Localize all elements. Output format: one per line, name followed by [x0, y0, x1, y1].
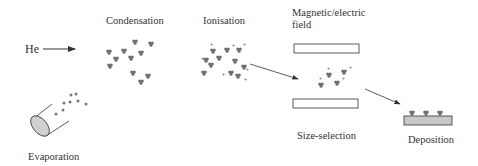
deposited-clusters: [409, 111, 443, 116]
charge-sign: +: [342, 75, 345, 81]
atom: [63, 102, 66, 105]
cluster: [138, 51, 144, 56]
cluster: [224, 48, 230, 53]
charge-sign: +: [319, 75, 322, 81]
charge-sign: +: [246, 66, 249, 72]
charge-sign: +: [210, 41, 213, 47]
field-label-line2: field: [292, 19, 312, 30]
beam-arrow-to-selector: [250, 64, 298, 79]
atom: [62, 109, 65, 112]
field-plate-top: [294, 44, 359, 53]
deposition-label: Deposition: [408, 134, 455, 145]
evaporated-atoms: [55, 93, 88, 116]
diagram-canvas: He Condensation Ionisation Magnetic/elec…: [0, 0, 478, 166]
ion-cluster: [318, 83, 324, 88]
atom: [69, 101, 72, 104]
deposited-cluster: [409, 111, 415, 116]
atom: [55, 113, 58, 116]
cluster: [145, 74, 151, 79]
deposited-cluster: [423, 111, 429, 116]
substrate: [404, 116, 452, 125]
cluster: [208, 63, 214, 68]
evaporation-label: Evaporation: [28, 151, 80, 162]
atom: [77, 100, 80, 103]
charge-sign: +: [222, 71, 225, 77]
cluster: [113, 57, 119, 62]
cluster: [236, 48, 242, 53]
ionisation-label: Ionisation: [203, 15, 246, 26]
cluster-deposition-diagram: He Condensation Ionisation Magnetic/elec…: [0, 0, 478, 166]
cluster: [201, 71, 207, 76]
condensation-label: Condensation: [106, 15, 164, 26]
ion-cluster: [341, 70, 347, 75]
beam-arrow-to-substrate: [365, 89, 400, 104]
cluster: [106, 50, 112, 55]
cluster: [132, 40, 138, 45]
cluster: [128, 56, 134, 61]
charge-sign: +: [349, 64, 352, 70]
charge-sign: +: [201, 55, 204, 61]
deposited-cluster: [437, 111, 443, 116]
cluster: [228, 71, 234, 76]
charge-sign: +: [327, 65, 330, 71]
cluster: [148, 42, 154, 47]
size-selection-label: Size-selection: [297, 130, 357, 141]
cluster: [235, 74, 241, 79]
field-plate-bottom: [293, 99, 358, 108]
ion-cluster: [326, 73, 332, 78]
gas-label: He: [25, 42, 39, 56]
atom: [70, 94, 73, 97]
cluster: [107, 64, 113, 69]
size-selected-clusters: ++++: [318, 64, 352, 88]
atom: [85, 103, 88, 106]
ionised-clusters: +++++++: [201, 41, 249, 82]
charge-sign: +: [244, 76, 247, 82]
neutral-clusters: [106, 40, 154, 85]
cluster: [216, 56, 222, 61]
cluster: [138, 80, 144, 85]
cluster: [121, 49, 127, 54]
cluster: [232, 59, 238, 64]
field-label-line1: Magnetic/electric: [292, 7, 366, 18]
cluster: [210, 49, 216, 54]
cluster: [130, 71, 136, 76]
charge-sign: +: [232, 42, 235, 48]
charge-sign: +: [243, 41, 246, 47]
atom: [75, 93, 78, 96]
ion-cluster: [334, 81, 340, 86]
cluster: [203, 58, 209, 63]
